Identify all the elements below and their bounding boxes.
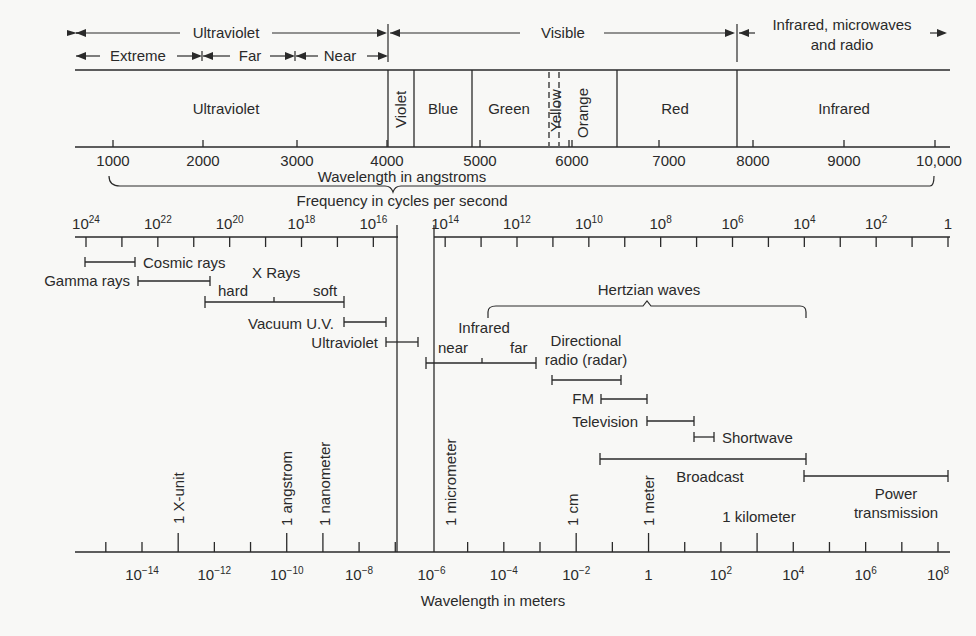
meter-tick-label: 102 [710, 565, 733, 583]
meter-tick-label: 10−6 [417, 565, 446, 583]
meter-tick-label: 108 [927, 565, 950, 583]
far-uv-label: Far [239, 47, 262, 64]
meter-axis: 10−1410−1210−1010−810−610−410−2110210410… [75, 533, 950, 609]
frequency-tick-label: 1010 [575, 214, 603, 232]
angstrom-tick-2000: 2000 [186, 152, 219, 169]
broadcast-label: Broadcast [676, 468, 744, 485]
cosmic-rays-label: Cosmic rays [143, 254, 226, 271]
band-red: Red [661, 100, 689, 117]
meter-tick-label: 106 [855, 565, 878, 583]
angstrom-tick-4000: 4000 [370, 152, 403, 169]
ultraviolet-region-label: Ultraviolet [193, 24, 261, 41]
frequency-tick-label: 1024 [72, 214, 100, 232]
frequency-tick-label: 1016 [359, 214, 387, 232]
infrared-far-label: far [510, 339, 528, 356]
frequency-tick-label: 1 [944, 215, 952, 232]
meter-tick-label: 10−10 [270, 565, 304, 583]
power-transmission-label-2: transmission [854, 504, 938, 521]
angstrom-axis: 1000 2000 3000 4000 5000 6000 7000 8000 … [96, 140, 962, 192]
meter-tick-label: 10−4 [490, 565, 519, 583]
infrared-region-label-2: and radio [811, 36, 874, 53]
directional-radio-label-2: radio (radar) [545, 351, 628, 368]
vacuum-uv-label: Vacuum U.V. [248, 315, 334, 332]
angstrom-marker: 1 angstrom [278, 451, 295, 526]
gamma-rays-label: Gamma rays [44, 272, 130, 289]
frequency-tick-label: 104 [793, 214, 816, 232]
micrometer-marker: 1 micrometer [442, 438, 459, 526]
frequency-axis-label: Frequency in cycles per second [297, 192, 508, 209]
band-blue: Blue [428, 100, 458, 117]
x-rays-label: X Rays [252, 264, 300, 281]
frequency-tick-label: 1012 [503, 214, 531, 232]
angstrom-tick-3000: 3000 [280, 152, 313, 169]
visible-boundary-lines [397, 225, 434, 552]
directional-radio-label-1: Directional [551, 332, 622, 349]
frequency-axis: Frequency in cycles per second 102410221… [72, 192, 952, 247]
meter-tick-label: 10−2 [562, 565, 591, 583]
x-rays-soft-label: soft [313, 282, 338, 299]
power-transmission-label-1: Power [875, 485, 918, 502]
near-uv-label: Near [324, 47, 357, 64]
fm-label: FM [572, 390, 594, 407]
kilometer-marker: 1 kilometer [722, 508, 795, 525]
angstrom-tick-10000: 10,000 [916, 152, 962, 169]
band-infrared: Infrared [818, 100, 870, 117]
infrared-region-label-1: Infrared, microwaves [772, 16, 911, 33]
band-yellow: Yellow [547, 89, 564, 132]
x-unit-marker: 1 X-unit [170, 471, 187, 524]
meter-tick-label: 10−14 [125, 565, 159, 583]
meter-marker: 1 meter [640, 475, 657, 526]
frequency-tick-label: 1020 [216, 214, 244, 232]
angstrom-tick-5000: 5000 [463, 152, 496, 169]
frequency-tick-label: 1014 [431, 214, 459, 232]
frequency-tick-label: 1018 [288, 214, 316, 232]
shortwave-label: Shortwave [722, 429, 793, 446]
extreme-uv-label: Extreme [110, 47, 166, 64]
television-label: Television [572, 413, 638, 430]
frequency-tick-label: 1022 [144, 214, 172, 232]
angstrom-tick-8000: 8000 [736, 152, 769, 169]
top-region-bands: Ultraviolet Extreme Far Near Visible Inf… [76, 16, 947, 64]
meter-tick-label: 10−12 [198, 565, 232, 583]
meter-tick-label: 10−8 [345, 565, 374, 583]
infrared-near-label: near [438, 339, 468, 356]
frequency-tick-label: 106 [721, 214, 744, 232]
hertzian-waves-label: Hertzian waves [598, 281, 701, 298]
meter-tick-label: 1 [644, 566, 652, 583]
angstrom-tick-7000: 7000 [652, 152, 685, 169]
frequency-tick-label: 108 [650, 214, 673, 232]
nanometer-marker: 1 nanometer [316, 442, 333, 526]
band-ultraviolet: Ultraviolet [193, 100, 261, 117]
band-violet: Violet [392, 90, 409, 128]
band-green: Green [488, 100, 530, 117]
infrared-range-label: Infrared [458, 319, 510, 336]
color-bands: Ultraviolet Violet Blue Green Yellow Ora… [75, 70, 950, 147]
spectrum-svg: Ultraviolet Extreme Far Near Visible Inf… [0, 0, 976, 636]
angstrom-tick-6000: 6000 [555, 152, 588, 169]
angstrom-tick-1000: 1000 [96, 152, 129, 169]
angstrom-axis-label: Wavelength in angstroms [318, 168, 487, 185]
ultraviolet-range-label: Ultraviolet [311, 334, 379, 351]
meter-axis-label: Wavelength in meters [421, 592, 566, 609]
visible-region-label: Visible [541, 24, 585, 41]
electromagnetic-spectrum-diagram: Ultraviolet Extreme Far Near Visible Inf… [0, 0, 976, 636]
meter-tick-label: 104 [782, 565, 805, 583]
angstrom-tick-9000: 9000 [827, 152, 860, 169]
x-rays-hard-label: hard [218, 282, 248, 299]
cm-marker: 1 cm [564, 493, 581, 526]
band-orange: Orange [574, 88, 591, 138]
frequency-tick-label: 102 [865, 214, 888, 232]
